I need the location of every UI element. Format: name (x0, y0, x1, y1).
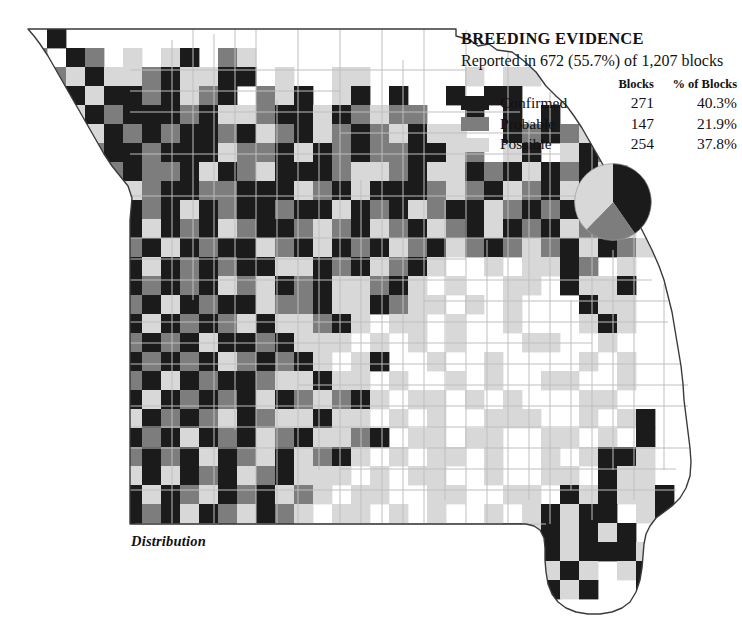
block-cell (123, 447, 142, 466)
block-cell (465, 219, 484, 238)
block-cell (218, 371, 237, 390)
legend-label: Possible (500, 134, 601, 155)
breeding-evidence-distribution-figure: BREEDING EVIDENCE Reported in 672 (55.7%… (0, 0, 742, 619)
block-cell (541, 447, 560, 466)
block-cell (142, 200, 161, 219)
block-cell (161, 181, 180, 200)
block-cell (199, 219, 218, 238)
block-cell (579, 314, 598, 333)
block-cell (579, 352, 598, 371)
legend-header-blocks: Blocks (601, 77, 668, 93)
block-cell (313, 257, 332, 276)
block-cell (655, 181, 674, 200)
block-cell (465, 181, 484, 200)
pie-slices (575, 164, 652, 241)
block-cell (503, 295, 522, 314)
block-cell (180, 504, 199, 523)
block-cell (66, 105, 85, 124)
block-cell (199, 86, 218, 105)
block-cell (370, 162, 389, 181)
block-cell (218, 485, 237, 504)
block-cell (370, 181, 389, 200)
block-cell (389, 409, 408, 428)
block-cell (617, 257, 636, 276)
block-cell (180, 86, 199, 105)
block-cell (313, 181, 332, 200)
block-cell (123, 409, 142, 428)
block-cell (560, 523, 579, 542)
block-cell (123, 257, 142, 276)
block-cell (218, 542, 237, 561)
block-cell (180, 295, 199, 314)
block-cell (161, 238, 180, 257)
block-cell (427, 238, 446, 257)
block-cell (465, 542, 484, 561)
block-cell (180, 162, 199, 181)
block-cell (161, 276, 180, 295)
block-cell (142, 580, 161, 599)
block-cell (332, 314, 351, 333)
block-cell (427, 162, 446, 181)
block-cell (427, 447, 446, 466)
block-cell (180, 238, 199, 257)
block-cell (446, 238, 465, 257)
block-cell (427, 485, 446, 504)
legend-row: Possible25437.8% (461, 134, 737, 155)
block-cell (389, 561, 408, 580)
block-cell (66, 504, 85, 523)
block-cell (180, 143, 199, 162)
block-cell (389, 371, 408, 390)
block-cell (617, 542, 636, 561)
block-cell (275, 466, 294, 485)
block-cell (47, 143, 66, 162)
block-cell (180, 428, 199, 447)
block-cell (180, 580, 199, 599)
block-cell (180, 181, 199, 200)
block-cell (85, 219, 104, 238)
block-cell (47, 162, 66, 181)
block-cell (579, 504, 598, 523)
block-cell (104, 466, 123, 485)
legend-table-body: Confirmed27140.3%Probable14721.9%Possibl… (461, 93, 737, 155)
block-cell (237, 238, 256, 257)
block-cell (598, 485, 617, 504)
block-cell (598, 333, 617, 352)
block-cell (617, 409, 636, 428)
block-cell (66, 485, 85, 504)
block-cell (294, 238, 313, 257)
block-cell (85, 48, 104, 67)
legend-blocks-value: 147 (601, 114, 668, 135)
block-cell (161, 504, 180, 523)
block-cell (655, 485, 674, 504)
block-cell (161, 371, 180, 390)
block-cell (275, 124, 294, 143)
block-cell (180, 352, 199, 371)
block-cell (294, 295, 313, 314)
block-cell (85, 466, 104, 485)
block-cell (294, 105, 313, 124)
block-cell (180, 409, 199, 428)
block-cell (332, 447, 351, 466)
block-cell (351, 86, 370, 105)
block-cell (85, 295, 104, 314)
color-swatch-icon (461, 117, 489, 131)
block-cell (636, 428, 655, 447)
block-cell (142, 485, 161, 504)
block-cell (47, 29, 66, 48)
block-cell (389, 219, 408, 238)
block-cell (408, 580, 427, 599)
block-cell (427, 200, 446, 219)
block-cell (199, 428, 218, 447)
block-cell (370, 485, 389, 504)
block-cell (579, 447, 598, 466)
block-cell (104, 542, 123, 561)
block-cell (161, 428, 180, 447)
block-cell (503, 276, 522, 295)
block-cell (351, 580, 370, 599)
block-cell (294, 257, 313, 276)
block-cell (66, 447, 85, 466)
pie-svg (574, 163, 652, 241)
block-cell (85, 504, 104, 523)
block-cell (427, 409, 446, 428)
block-cell (180, 257, 199, 276)
